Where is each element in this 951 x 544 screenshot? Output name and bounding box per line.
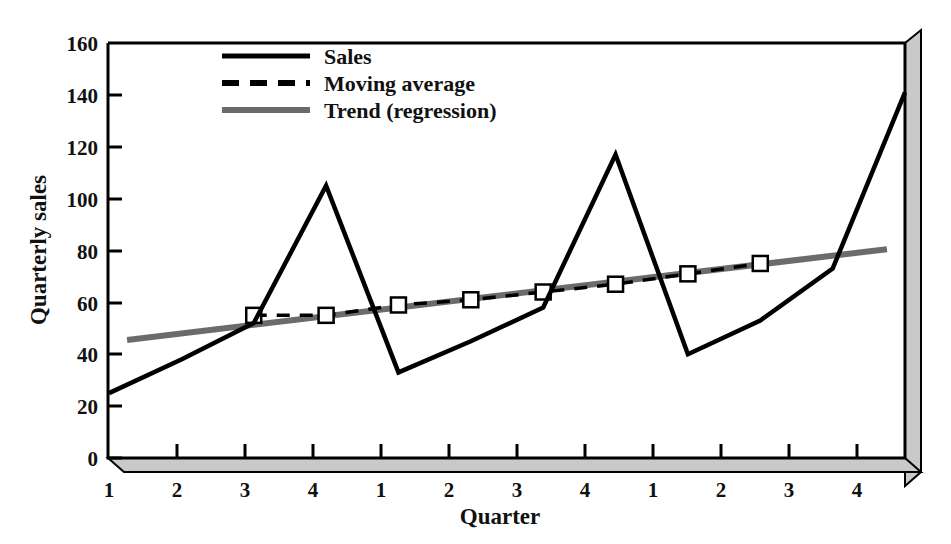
moving-average-marker [319, 308, 334, 323]
y-axis-ticks [108, 95, 122, 458]
x-tick-label-9: 1 [648, 478, 659, 502]
y-tick-label-40: 40 [77, 343, 98, 367]
y-tick-label-100: 100 [67, 188, 99, 212]
y-tick-label-120: 120 [67, 136, 99, 160]
y-tick-label-160: 160 [67, 32, 99, 56]
x-tick-label-5: 1 [376, 478, 387, 502]
x-tick-label-3: 3 [240, 478, 251, 502]
plot-frame [108, 43, 905, 458]
y-tick-label-20: 20 [77, 395, 98, 419]
moving-average-marker [608, 277, 623, 292]
x-axis-tick-labels: 1 2 3 4 1 2 3 4 1 2 3 4 [104, 478, 863, 502]
plot-right-bevel [905, 30, 921, 486]
moving-average-marker [753, 256, 768, 271]
x-tick-label-11: 3 [784, 478, 795, 502]
legend-label-moving-average: Moving average [324, 71, 475, 96]
moving-average-marker [463, 292, 478, 307]
data-series-group [109, 92, 905, 393]
x-tick-label-12: 4 [852, 478, 863, 502]
y-tick-label-60: 60 [77, 292, 98, 316]
plot-bottom-bevel [108, 458, 921, 472]
y-axis-title: Quarterly sales [26, 175, 51, 325]
x-tick-label-2: 2 [172, 478, 183, 502]
chart-figure: 0 20 40 60 80 100 120 140 160 Quarterly … [0, 0, 951, 544]
moving-average-markers [246, 256, 768, 323]
y-tick-label-140: 140 [67, 84, 99, 108]
x-axis-title: Quarter [460, 504, 540, 529]
y-tick-label-0: 0 [88, 447, 99, 471]
x-tick-label-7: 3 [512, 478, 523, 502]
x-tick-label-4: 4 [308, 478, 319, 502]
x-tick-label-10: 2 [716, 478, 727, 502]
moving-average-marker [680, 266, 695, 281]
x-tick-label-8: 4 [580, 478, 591, 502]
x-tick-label-6: 2 [444, 478, 455, 502]
y-tick-label-80: 80 [77, 240, 98, 264]
plot-border [108, 43, 905, 458]
x-tick-label-1: 1 [104, 478, 115, 502]
legend-label-sales: Sales [324, 44, 372, 69]
moving-average-marker [391, 297, 406, 312]
series-sales [109, 92, 905, 393]
chart-legend: Sales Moving average Trend (regression) [222, 44, 497, 123]
legend-label-trend: Trend (regression) [324, 98, 497, 123]
y-axis-tick-labels: 0 20 40 60 80 100 120 140 160 [67, 32, 99, 471]
quarterly-sales-line-chart: 0 20 40 60 80 100 120 140 160 Quarterly … [0, 0, 951, 544]
x-axis-ticks [177, 444, 857, 458]
